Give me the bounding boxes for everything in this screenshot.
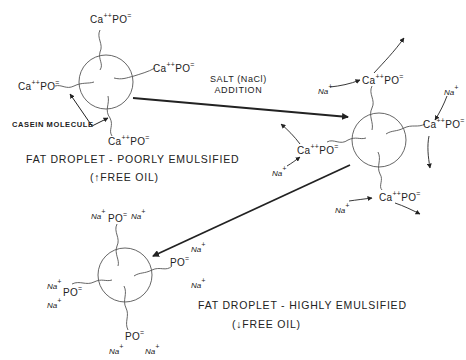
casein-pointer-arrow bbox=[92, 118, 108, 126]
na-ion: Na+ bbox=[47, 278, 61, 291]
na-approach-arrow bbox=[349, 198, 372, 201]
poorly-emulsified-caption: FAT DROPLET - POORLY EMULSIFIED bbox=[26, 153, 239, 165]
po-ion-top: PO= bbox=[108, 211, 127, 224]
po-ion-right: PO= bbox=[170, 255, 189, 268]
casein-molecule-label: CASEIN MOLECULE bbox=[12, 120, 94, 129]
ca-po-ion-bottom: Ca++PO= bbox=[379, 190, 421, 203]
na-ion: Na+ bbox=[318, 83, 332, 96]
na-ion: Na+ bbox=[131, 208, 145, 221]
ca-po-ion-right: Ca++PO= bbox=[423, 117, 465, 130]
ca-release-arrow bbox=[374, 38, 404, 73]
salt-addition-line1: SALT (NaCl) bbox=[210, 74, 267, 85]
ca-po-ion-right: Ca++PO= bbox=[153, 61, 195, 74]
casein-molecule-strand bbox=[55, 82, 94, 87]
casein-molecule-strand bbox=[114, 68, 155, 79]
na-approach-arrow bbox=[330, 80, 360, 87]
na-ion: Na+ bbox=[335, 202, 349, 215]
ca-po-ion-top: Ca++PO= bbox=[90, 12, 132, 25]
po-ion-left: PO= bbox=[63, 285, 82, 298]
emulsification-arrow bbox=[153, 165, 350, 256]
na-ion: Na+ bbox=[91, 208, 105, 221]
na-ion: Na+ bbox=[109, 343, 123, 356]
na-ion: Na+ bbox=[145, 343, 159, 356]
casein-molecule-strand bbox=[386, 124, 425, 134]
salt-addition-line2: ADDITION bbox=[210, 85, 267, 96]
ca-po-ion-left: Ca++PO= bbox=[18, 79, 60, 92]
casein-molecule-strand bbox=[107, 96, 112, 136]
na-ion: Na+ bbox=[272, 165, 286, 178]
casein-molecule-strand bbox=[371, 86, 374, 130]
na-approach-arrow bbox=[287, 157, 300, 166]
ca-release-arrow bbox=[395, 203, 420, 214]
ca-release-arrow bbox=[428, 136, 430, 168]
casein-molecule-strand bbox=[378, 152, 382, 190]
na-ion: Na+ bbox=[47, 297, 61, 310]
na-ion: Na+ bbox=[191, 241, 205, 254]
casein-molecule-strand bbox=[72, 280, 112, 284]
poorly-emulsified-subcaption: (↑FREE OIL) bbox=[90, 171, 159, 183]
salt-addition-arrow bbox=[133, 98, 348, 117]
casein-molecule-strand bbox=[99, 30, 102, 70]
na-ion: Na+ bbox=[444, 84, 458, 97]
intermediate-droplet bbox=[327, 86, 425, 190]
fat-droplet-circle bbox=[79, 55, 133, 109]
highly-emulsified-droplet bbox=[72, 224, 172, 330]
highly-emulsified-caption: FAT DROPLET - HIGHLY EMULSIFIED bbox=[198, 299, 407, 311]
ca-po-ion-left: Ca++PO= bbox=[297, 143, 339, 156]
casein-molecule-strand bbox=[134, 266, 172, 276]
ca-po-ion-bottom: Ca++PO= bbox=[108, 134, 150, 147]
highly-emulsified-subcaption: (↓FREE OIL) bbox=[232, 318, 301, 330]
casein-molecule-strand bbox=[124, 286, 128, 330]
na-ion: Na+ bbox=[191, 277, 205, 290]
casein-molecule-strand bbox=[116, 224, 119, 266]
po-ion-bottom: PO= bbox=[125, 329, 144, 342]
ca-release-arrow bbox=[281, 124, 300, 144]
ca-po-ion-top: Ca++PO= bbox=[362, 73, 404, 86]
salt-addition-label: SALT (NaCl) ADDITION bbox=[210, 74, 267, 96]
casein-molecule-strand bbox=[327, 138, 366, 142]
